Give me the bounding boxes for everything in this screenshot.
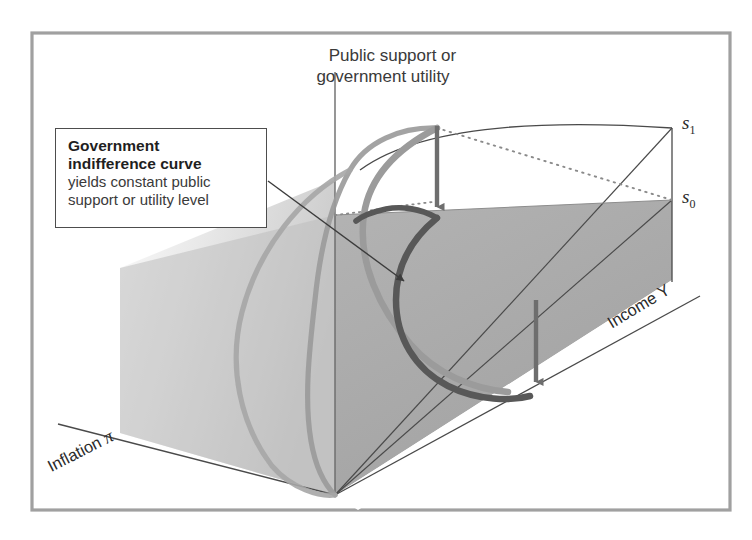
s0-subscript: 0 xyxy=(689,197,695,211)
callout-line-1: Government xyxy=(68,137,256,155)
callout-line-3: yields constant public xyxy=(68,173,256,191)
s1-subscript: 1 xyxy=(689,123,695,137)
s1-to-s0-dotted xyxy=(437,128,672,200)
axis-title-support: Public support or government utility xyxy=(283,24,483,108)
callout-line-2: indifference curve xyxy=(68,155,256,173)
callout-box: Government indifference curve yields con… xyxy=(55,128,267,228)
axis-title-line1: Public support or government utility xyxy=(316,46,456,86)
figure-container: Public support or government utility Gov… xyxy=(0,0,752,540)
level-label-s0: s0 xyxy=(682,186,695,212)
callout-line-4: support or utility level xyxy=(68,191,256,209)
level-label-s1: s1 xyxy=(682,112,695,138)
